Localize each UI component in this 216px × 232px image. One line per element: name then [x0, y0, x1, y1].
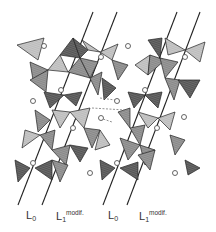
- layer-lines: [18, 12, 200, 205]
- crystal-structure-diagram: [0, 0, 216, 232]
- label-L0-left: L0: [26, 210, 36, 222]
- label-L0-right: L0: [108, 210, 118, 222]
- dashed-bonds: [92, 98, 125, 122]
- label-L1-modif-left: L1modif.: [56, 210, 84, 223]
- label-L1-modif-right: L1modif.: [139, 210, 167, 223]
- tetrahedra: [15, 38, 205, 182]
